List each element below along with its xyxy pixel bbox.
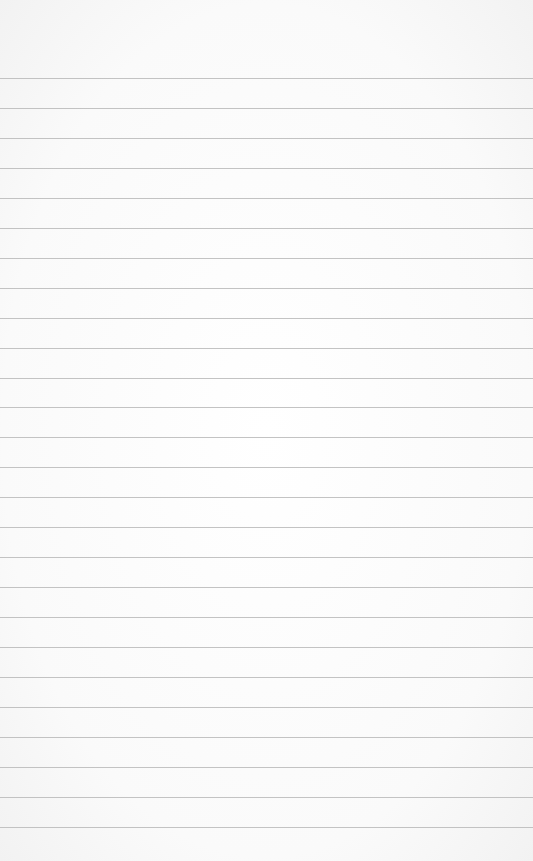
- ruled-line: [0, 497, 533, 498]
- ruled-line: [0, 527, 533, 528]
- ruled-line: [0, 348, 533, 349]
- ruled-line: [0, 437, 533, 438]
- ruled-line: [0, 288, 533, 289]
- ruled-line: [0, 258, 533, 259]
- ruled-line: [0, 168, 533, 169]
- ruled-line: [0, 617, 533, 618]
- ruled-line: [0, 378, 533, 379]
- ruled-line: [0, 318, 533, 319]
- ruled-line: [0, 138, 533, 139]
- ruled-line: [0, 198, 533, 199]
- ruled-line: [0, 228, 533, 229]
- ruled-line: [0, 707, 533, 708]
- ruled-line: [0, 737, 533, 738]
- ruled-line: [0, 467, 533, 468]
- ruled-line: [0, 647, 533, 648]
- ruled-line: [0, 677, 533, 678]
- ruled-line: [0, 557, 533, 558]
- ruled-line: [0, 767, 533, 768]
- ruled-line: [0, 407, 533, 408]
- ruled-line: [0, 587, 533, 588]
- ruled-line: [0, 797, 533, 798]
- lined-paper: [0, 0, 533, 861]
- ruled-line: [0, 108, 533, 109]
- ruled-line: [0, 78, 533, 79]
- ruled-line: [0, 827, 533, 828]
